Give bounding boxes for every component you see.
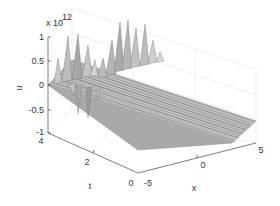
z-exponent: 12	[62, 12, 72, 22]
z-tick-0: 0	[39, 80, 44, 90]
z-tick-1: 1	[39, 32, 44, 42]
t-axis-label: t	[89, 181, 92, 191]
t-tick-4: 4	[38, 136, 43, 146]
x-tick-5: 5	[258, 145, 263, 155]
z-tick-0.5: 0.5	[31, 56, 44, 66]
t-tick-2: 2	[84, 157, 89, 167]
x-tick-0: 0	[200, 160, 205, 170]
z-axis-label: u	[14, 85, 24, 90]
z-multiplier: x 10	[46, 18, 63, 28]
surface-plot: 1 0.5 0 -0.5 -1 x 10 12 4 2 0 -5 0 5 u t…	[0, 0, 280, 206]
z-tick-neg0.5: -0.5	[28, 105, 44, 115]
t-tick-0: 0	[128, 178, 133, 188]
x-tick-neg5: -5	[144, 178, 152, 188]
x-axis-label: x	[192, 183, 197, 193]
